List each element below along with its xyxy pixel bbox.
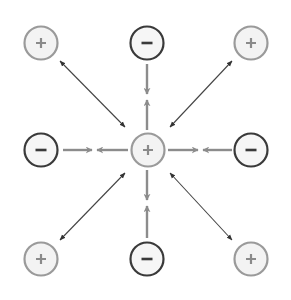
diagonal-arrow-top-left xyxy=(60,61,125,127)
positive-charge-center xyxy=(132,134,165,167)
positive-charge-bottom-right xyxy=(235,243,268,276)
diagonal-arrow-top-right xyxy=(170,61,232,127)
charge-diagram xyxy=(0,0,291,300)
diagonal-arrow-bottom-right xyxy=(170,173,232,240)
negative-charge-middle-right xyxy=(235,134,268,167)
positive-charge-top-right xyxy=(235,27,268,60)
negative-charge-bottom-center xyxy=(131,243,164,276)
negative-charge-middle-left xyxy=(25,134,58,167)
negative-charge-top-center xyxy=(131,27,164,60)
diagram-canvas xyxy=(0,0,291,300)
positive-charge-top-left xyxy=(25,27,58,60)
positive-charge-bottom-left xyxy=(25,243,58,276)
diagonal-arrow-bottom-left xyxy=(60,173,125,240)
